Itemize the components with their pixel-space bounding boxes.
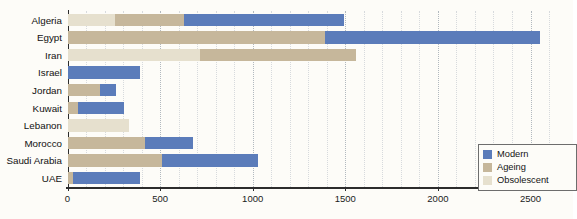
category-label: Algeria <box>0 15 62 26</box>
legend-label: Obsolescent <box>497 175 549 186</box>
bar-segment <box>68 84 100 96</box>
bar-segment <box>73 172 140 184</box>
category-label: Saudi Arabia <box>0 155 62 166</box>
legend-entry[interactable]: Modern <box>479 148 576 161</box>
x-axis-tick-label: 500 <box>152 193 168 204</box>
category-label: Egypt <box>0 32 62 43</box>
bar-segment <box>115 14 184 26</box>
x-axis-tick <box>253 187 254 191</box>
legend-swatch-icon <box>483 163 492 172</box>
bar-segment <box>162 154 258 166</box>
bar-segment <box>68 154 162 166</box>
category-label: Lebanon <box>0 120 62 131</box>
legend-swatch-icon <box>483 176 492 185</box>
bar-segment <box>100 84 116 96</box>
x-axis-tick <box>160 187 161 191</box>
x-axis-tick-label: 1500 <box>335 193 356 204</box>
x-axis-tick-label: 0 <box>65 193 70 204</box>
x-axis-tick <box>68 187 69 191</box>
legend-swatch-icon <box>483 150 492 159</box>
bar-segment <box>68 137 146 149</box>
category-label: Jordan <box>0 85 62 96</box>
bar-segment <box>68 14 115 26</box>
legend: ModernAgeingObsolescent <box>478 144 577 191</box>
legend-label: Ageing <box>497 162 526 173</box>
x-axis-tick-label: 1000 <box>242 193 263 204</box>
legend-entry[interactable]: Obsolescent <box>479 174 576 187</box>
category-label: UAE <box>0 173 62 184</box>
legend-entry[interactable]: Ageing <box>479 161 576 174</box>
legend-label: Modern <box>497 149 529 160</box>
x-axis-line <box>66 187 549 189</box>
category-label: Morocco <box>0 138 62 149</box>
x-axis-tick <box>438 187 439 191</box>
bar-segment <box>68 31 325 43</box>
bar-segment <box>68 102 78 114</box>
bar-segment <box>200 49 356 61</box>
category-label: Iran <box>0 50 62 61</box>
x-axis-tick-label: 2000 <box>427 193 448 204</box>
bar-segment <box>325 31 540 43</box>
bar-segment <box>78 102 124 114</box>
bar-segment <box>145 137 192 149</box>
category-label: Israel <box>0 67 62 78</box>
bar-segment <box>68 49 200 61</box>
bar-segment <box>68 66 140 78</box>
x-axis-tick <box>345 187 346 191</box>
x-axis-tick-label: 2500 <box>520 193 541 204</box>
category-label: Kuwait <box>0 103 62 114</box>
bar-segment <box>68 119 129 131</box>
bar-segment <box>184 14 344 26</box>
